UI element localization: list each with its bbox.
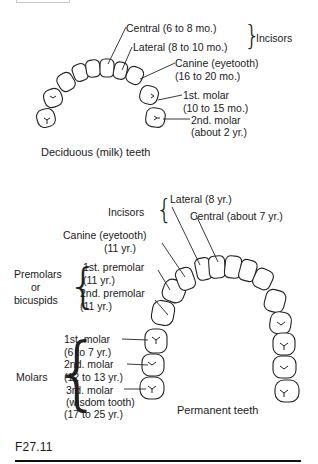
deciduous-molar2-label: 2nd. molar (191, 114, 241, 126)
bottom-rule (15, 460, 301, 462)
figure-number: F27.11 (15, 440, 53, 454)
premolar2-label: 2nd. premolar (80, 287, 145, 299)
permanent-central-label: Central (about 7 yr.) (190, 210, 283, 222)
premolar1-age: (11 yr.) (83, 274, 115, 286)
molar1-age: (6 to 7 yr.) (64, 346, 111, 358)
molar1-label: 1st. molar (64, 333, 110, 345)
deciduous-canine-age: (16 to 20 mo.) (175, 70, 240, 82)
molar3-age: (17 to 25 yr.) (64, 408, 123, 420)
deciduous-canine-label: Canine (eyetooth) (175, 57, 258, 69)
molar3-note: (wisdom tooth) (66, 396, 135, 408)
deciduous-incisors-group-label: Incisors (256, 32, 292, 44)
molar3-label: 3rd. molar (66, 384, 113, 396)
deciduous-central-label: Central (6 to 8 mo.) (126, 22, 216, 34)
permanent-canine-label: Canine (eyetooth) (63, 229, 146, 241)
premolar2-age: (11 yr.) (80, 300, 112, 312)
molar2-age: (12 to 13 yr.) (64, 371, 123, 383)
molar2-label: 2nd. molar (64, 358, 114, 370)
permanent-caption: Permanent teeth (177, 404, 258, 416)
molars-group-label: Molars (16, 371, 48, 383)
deciduous-arch (35, 59, 166, 129)
permanent-incisors-group-label: Incisors (108, 206, 144, 218)
premolars-group-label: Premolars (14, 268, 62, 280)
premolars-group-or: or (31, 281, 40, 293)
permanent-lateral-label: Lateral (8 yr.) (170, 193, 232, 205)
teeth-diagram (0, 0, 318, 464)
permanent-canine-age: (11 yr.) (104, 242, 136, 254)
permanent-arch (140, 255, 299, 402)
deciduous-lateral-label: Lateral (8 to 10 mo.) (133, 41, 228, 53)
deciduous-caption: Deciduous (milk) teeth (41, 146, 150, 158)
premolars-group-bicuspids: bicuspids (14, 294, 58, 306)
deciduous-molar1-label: 1st. molar (183, 89, 229, 101)
deciduous-molar1-age: (10 to 15 mo.) (183, 102, 248, 114)
premolar1-label: 1st. premolar (83, 261, 144, 273)
deciduous-molar2-age: (about 2 yr.) (191, 126, 247, 138)
